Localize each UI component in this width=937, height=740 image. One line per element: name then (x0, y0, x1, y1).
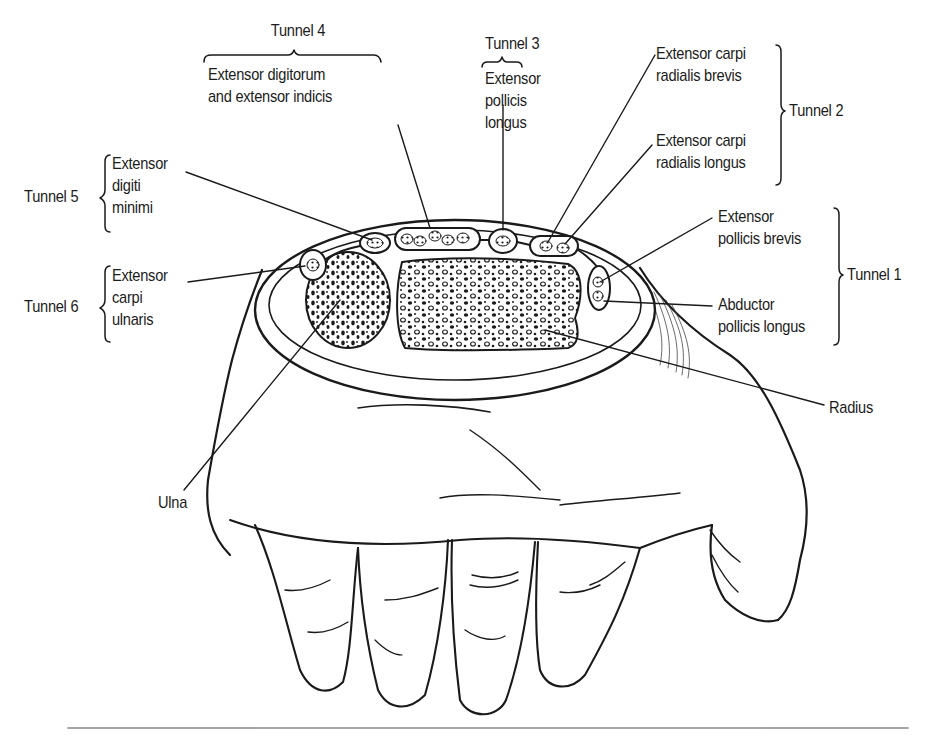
label-line: Extensor digitorum (208, 64, 332, 86)
radius-bone (397, 258, 580, 350)
label-line: Extensor (485, 68, 541, 90)
tunnel-1-sheath (588, 266, 610, 310)
tunnel-4-muscle-label: Extensor digitorum and extensor indicis (208, 64, 332, 108)
ulna-label: Ulna (158, 492, 187, 514)
label-line: Extensor (718, 206, 801, 228)
tunnel-2-muscle-2-label: Extensor carpi radialis longus (656, 130, 746, 174)
label-line: radialis brevis (656, 65, 746, 87)
label-line: digiti (112, 175, 168, 197)
wrist-cross-section (255, 220, 655, 400)
tunnel-5-label: Tunnel 5 (24, 186, 78, 208)
tunnel-5-muscle-label: Extensor digiti minimi (112, 153, 168, 219)
label-line: pollicis (485, 90, 541, 112)
tunnel-1-muscle-2-label: Abductor pollicis longus (718, 294, 805, 338)
label-line: pollicis longus (718, 316, 805, 338)
fingers (255, 525, 640, 714)
label-line: Extensor (112, 265, 168, 287)
label-line: ulnaris (112, 309, 168, 331)
label-line: Extensor carpi (656, 43, 746, 65)
label-line: radialis longus (656, 152, 746, 174)
label-line: Extensor carpi (656, 130, 746, 152)
tunnel-6-label: Tunnel 6 (24, 296, 78, 318)
tunnel-6-muscle-label: Extensor carpi ulnaris (112, 265, 168, 331)
label-line: carpi (112, 287, 168, 309)
radius-label: Radius (829, 397, 873, 419)
label-line: Abductor (718, 294, 805, 316)
wrist-extensor-tunnels-diagram: Tunnel 4 Extensor digitorum and extensor… (0, 0, 937, 740)
tunnel-1-muscle-1-label: Extensor pollicis brevis (718, 206, 801, 250)
label-line: minimi (112, 197, 168, 219)
label-line: and extensor indicis (208, 86, 332, 108)
tunnel-2-muscle-1-label: Extensor carpi radialis brevis (656, 43, 746, 87)
tunnel-3-muscle-label: Extensor pollicis longus (485, 68, 541, 134)
tunnel-3-label: Tunnel 3 (485, 33, 539, 55)
tunnel-1-label: Tunnel 1 (847, 264, 901, 286)
label-line: Extensor (112, 153, 168, 175)
tunnel-2-label: Tunnel 2 (789, 100, 843, 122)
label-line: longus (485, 112, 541, 134)
tunnel-4-label: Tunnel 4 (264, 20, 333, 42)
tunnel-2-sheath (530, 236, 578, 256)
label-line: pollicis brevis (718, 228, 801, 250)
